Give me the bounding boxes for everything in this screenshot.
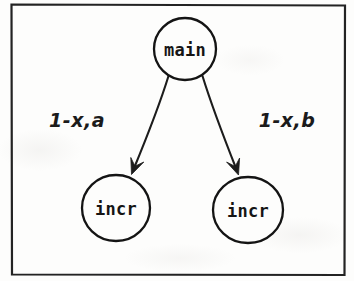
edge-right-line <box>203 76 237 170</box>
node-incr-right-label: incr <box>227 201 269 221</box>
node-main-label: main <box>164 40 206 60</box>
edge-right <box>203 76 240 175</box>
node-main[interactable]: main <box>154 18 216 80</box>
edge-right-label: 1-x,b <box>259 109 316 131</box>
node-incr-right[interactable]: incr <box>213 177 283 243</box>
edge-left-label: 1-x,a <box>49 109 105 131</box>
node-edge-diagram: main incr incr 1-x,a 1-x,b <box>0 0 354 281</box>
diagram-screenshot: main incr incr 1-x,a 1-x,b <box>0 0 354 281</box>
node-incr-left-label: incr <box>95 199 137 219</box>
edge-left-line <box>134 76 169 170</box>
node-incr-left[interactable]: incr <box>82 175 150 241</box>
edge-left <box>131 76 169 175</box>
